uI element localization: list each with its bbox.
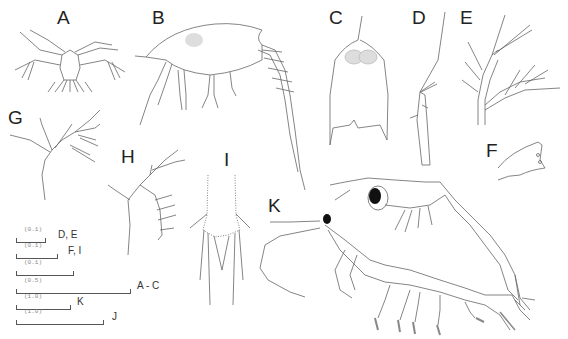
panel-label-d: D <box>412 8 426 27</box>
panel-label-c: C <box>329 8 343 27</box>
drawing-e <box>462 15 560 125</box>
panel-label-a: A <box>57 8 70 27</box>
figure-plate: A B C D E F G H I K (0.1) D, E (0.1) F, … <box>0 0 568 339</box>
panel-label-b: B <box>152 8 165 27</box>
panel-label-i: I <box>224 150 229 169</box>
scale-bar-unlabeled: (0.1) <box>16 266 72 276</box>
scale-bar-f-i: (0.1) F, I <box>16 249 56 259</box>
drawing-g <box>10 110 100 200</box>
drawing-d <box>410 12 445 165</box>
drawing-f <box>498 142 545 180</box>
panel-label-g: G <box>8 108 23 127</box>
drawing-h <box>108 150 185 255</box>
panel-label-h: H <box>121 147 135 166</box>
panel-label-k: K <box>268 196 281 215</box>
drawing-k <box>260 214 530 335</box>
panel-label-f: F <box>486 141 498 160</box>
drawing-i <box>190 175 250 305</box>
scale-bar-j: (1.0) J <box>16 315 102 325</box>
drawing-c <box>330 16 388 145</box>
panel-label-e: E <box>460 8 473 27</box>
drawing-a <box>15 30 125 92</box>
